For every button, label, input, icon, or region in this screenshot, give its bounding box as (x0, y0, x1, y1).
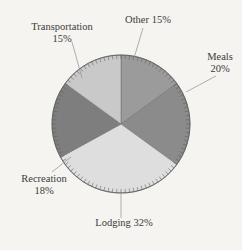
slice-label-line-1: Transportation (31, 21, 93, 32)
slice-label-meals: Meals20% (207, 51, 233, 74)
leader-line-other (134, 28, 143, 58)
slice-label-other: Other 15% (125, 14, 171, 25)
slice-label-line-2: 15% (52, 33, 72, 44)
slice-label-line-1: Recreation (21, 173, 67, 184)
pie-chart-canvas: Other 15%Meals20%Lodging 32%Recreation18… (0, 0, 242, 250)
slice-label-line-2: 18% (34, 185, 54, 196)
leader-line-meals (186, 76, 216, 92)
slice-label-transportation: Transportation15% (31, 21, 93, 44)
slice-label-line-2: 20% (210, 63, 230, 74)
slice-label-line-1: Other 15% (125, 14, 171, 25)
slice-label-line-1: Meals (207, 51, 233, 62)
slice-label-line-1: Lodging 32% (95, 217, 153, 228)
pie-chart-figure: Other 15%Meals20%Lodging 32%Recreation18… (0, 0, 242, 250)
pie-wedges (52, 55, 190, 193)
slice-label-recreation: Recreation18% (21, 173, 67, 196)
slice-label-lodging: Lodging 32% (95, 217, 153, 228)
